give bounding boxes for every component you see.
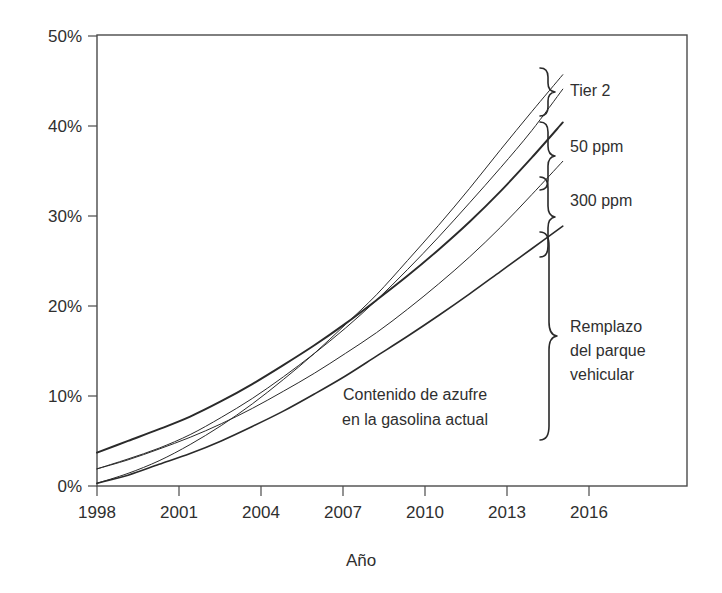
y-tick-label-0: 0% bbox=[57, 477, 82, 496]
annotation-label-remplazo-line3: vehicular bbox=[570, 366, 635, 383]
series-line-3 bbox=[97, 161, 563, 469]
x-axis-title: Año bbox=[346, 551, 376, 570]
y-axis-ticks bbox=[88, 36, 97, 486]
y-tick-label-40: 40% bbox=[48, 117, 82, 136]
x-tick-label-2001: 2001 bbox=[160, 503, 198, 522]
annotation-label-tier2: Tier 2 bbox=[570, 82, 610, 99]
x-tick-label-2004: 2004 bbox=[242, 503, 280, 522]
annotation-label-remplazo-line2: del parque bbox=[570, 342, 646, 359]
chart-figure: 50% 40% 30% 20% 10% 0% 1998 2001 2004 20… bbox=[0, 0, 722, 593]
annotation-label-gasolina-line2: en la gasolina actual bbox=[342, 411, 488, 428]
x-tick-label-2013: 2013 bbox=[488, 503, 526, 522]
annotation-label-gasolina-line1: Contenido de azufre bbox=[343, 386, 487, 403]
x-tick-label-2016: 2016 bbox=[570, 503, 608, 522]
series-line-2 bbox=[97, 122, 563, 452]
y-tick-label-30: 30% bbox=[48, 207, 82, 226]
y-tick-label-20: 20% bbox=[48, 297, 82, 316]
y-tick-label-50: 50% bbox=[48, 27, 82, 46]
y-tick-label-10: 10% bbox=[48, 387, 82, 406]
annotation-label-50ppm: 50 ppm bbox=[570, 138, 623, 155]
series-line-0 bbox=[97, 75, 563, 484]
brace-tier2 bbox=[540, 68, 555, 116]
series-line-1 bbox=[97, 89, 563, 469]
x-axis-ticks bbox=[97, 486, 589, 496]
x-tick-label-2007: 2007 bbox=[324, 503, 362, 522]
series-group bbox=[97, 75, 563, 484]
sulfur-content-line-chart: 50% 40% 30% 20% 10% 0% 1998 2001 2004 20… bbox=[0, 0, 722, 593]
brace-50ppm bbox=[540, 122, 555, 190]
x-tick-label-2010: 2010 bbox=[406, 503, 444, 522]
x-tick-label-1998: 1998 bbox=[78, 503, 116, 522]
annotation-braces bbox=[540, 68, 557, 440]
brace-remplazo bbox=[540, 232, 557, 440]
annotation-label-remplazo-line1: Remplazo bbox=[570, 318, 642, 335]
annotation-label-300ppm: 300 ppm bbox=[570, 192, 632, 209]
